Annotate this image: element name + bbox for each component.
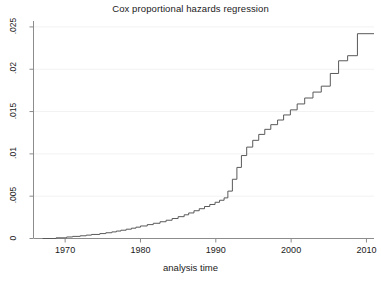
- x-axis-title: analysis time: [0, 262, 381, 273]
- hazard-step-line: [43, 34, 374, 239]
- x-tick-label: 1980: [130, 245, 150, 255]
- plot-area: [0, 0, 381, 283]
- y-tick-label: .01: [8, 138, 18, 168]
- y-tick-label: .02: [8, 53, 18, 83]
- cox-regression-chart: Cox proportional hazards regression 0.00…: [0, 0, 381, 283]
- x-tick-label: 2000: [281, 245, 301, 255]
- y-tick-label: .015: [8, 96, 18, 126]
- y-tick-label: 0: [8, 223, 18, 253]
- y-tick-label: .005: [8, 180, 18, 210]
- y-tick-marks: [30, 27, 34, 239]
- y-tick-label: .025: [8, 11, 18, 41]
- axes-group: [34, 21, 375, 239]
- x-tick-label: 1970: [55, 245, 75, 255]
- x-tick-marks: [65, 239, 366, 243]
- x-tick-label: 2010: [356, 245, 376, 255]
- x-tick-label: 1990: [206, 245, 226, 255]
- gridlines-group: [34, 27, 375, 196]
